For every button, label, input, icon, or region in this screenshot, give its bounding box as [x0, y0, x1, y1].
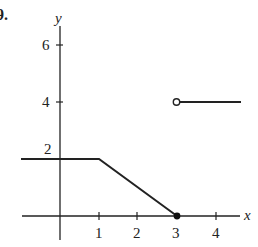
- x-tick-label-4: 4: [212, 225, 220, 241]
- y-tick-label-6: 6: [42, 37, 50, 53]
- problem-label: 9.: [0, 6, 8, 23]
- x-tick-label-1: 1: [95, 225, 103, 241]
- x-axis-label: x: [243, 207, 251, 223]
- piecewise-line-lower: [21, 159, 177, 216]
- closed-dot-marker: [174, 213, 181, 220]
- y-tick-label-4: 4: [42, 94, 50, 110]
- x-tick-label-3: 3: [172, 225, 180, 241]
- open-dot-marker: [173, 99, 179, 105]
- x-tick-label-2: 2: [133, 225, 141, 241]
- function-graph: 9. y x 6 4 2 1 2 3 4: [0, 0, 258, 247]
- y-axis-label: y: [53, 10, 62, 26]
- y-tick-label-2: 2: [44, 141, 52, 157]
